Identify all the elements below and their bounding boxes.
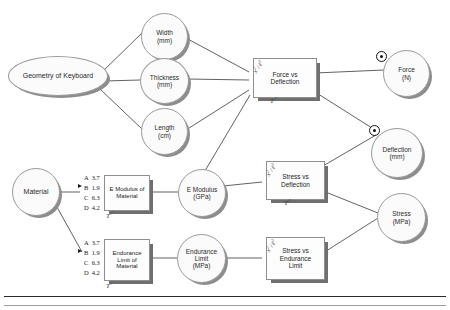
node-endurance-limit[interactable]: Endurance Limit (MPa)	[177, 234, 226, 283]
node-width[interactable]: Width (mm)	[141, 13, 188, 60]
box-stress-vs-deflection-line1: Stress vs	[281, 173, 310, 180]
wire-svd-stress	[323, 191, 378, 213]
option-key: B	[84, 248, 90, 258]
wire-svd-deflection	[323, 135, 376, 166]
option-key: A	[84, 173, 90, 183]
node-stress-unit: (MPa)	[392, 218, 410, 225]
option-key: D	[84, 268, 90, 278]
wire-thickness-fvd	[187, 79, 249, 80]
option-row[interactable]: A 3.7	[78, 173, 100, 183]
option-row[interactable]: C 6.3	[78, 193, 100, 203]
box-endurance-line2: Limit of	[112, 257, 141, 264]
box-force-vs-deflection-line1: Force vs	[271, 71, 300, 78]
box-stress-vs-deflection-line2: Deflection	[281, 181, 310, 188]
option-row[interactable]: B 1.9	[78, 248, 100, 258]
option-row[interactable]: D 4.2	[78, 203, 100, 213]
option-value: 3.7	[92, 174, 100, 181]
tag-e-modulus-of-material: T?	[106, 211, 112, 220]
tag-endurance-limit-of-material: T?	[106, 281, 112, 290]
node-e-modulus[interactable]: E Modulus (GPa)	[178, 169, 226, 217]
option-value: 4.2	[92, 269, 100, 276]
node-endurance-limit-unit: (MPa)	[186, 262, 217, 269]
diagram-canvas: Geometry of Keyboard Material Width (mm)…	[0, 0, 450, 310]
option-value: 1.9	[92, 249, 100, 256]
box-e-modulus-of-material[interactable]: E Modulus of Material	[104, 175, 150, 211]
box-e-modulus-line1: E Modulus of	[109, 186, 144, 193]
target-icon-force	[376, 51, 387, 62]
node-stress-label: Stress	[392, 210, 410, 217]
node-material-label: Material	[22, 188, 51, 196]
wire-geometry-length	[101, 90, 142, 129]
wire-width-fvd	[186, 38, 249, 72]
option-list-e-modulus[interactable]: A 3.7 B 1.9 C 6.3 D 4.2	[78, 173, 100, 213]
box-endurance-limit-of-material[interactable]: Endurance Limit of Material	[104, 239, 150, 281]
node-material[interactable]: Material	[12, 168, 60, 216]
page-rule-bottom-secondary	[4, 305, 446, 306]
wire-length-fvd	[186, 90, 249, 130]
option-value: 1.9	[92, 184, 100, 191]
wire-fvd-force	[315, 70, 384, 73]
option-row[interactable]: C 6.3	[78, 258, 100, 268]
option-value: 3.7	[92, 239, 100, 246]
wire-geometry-width	[100, 33, 142, 74]
node-endurance-limit-label: Endurance	[186, 248, 217, 255]
option-key: C	[84, 193, 90, 203]
node-deflection-label: Deflection	[383, 146, 412, 153]
box-endurance-line3: Material	[112, 263, 141, 270]
node-deflection-unit: (mm)	[383, 153, 412, 160]
node-deflection[interactable]: Deflection (mm)	[371, 128, 423, 178]
box-stress-vs-endurance-line3: Limit	[280, 262, 311, 269]
node-length-unit: (cm)	[155, 132, 175, 139]
node-thickness-unit: (mm)	[150, 81, 179, 88]
box-stress-vs-endurance-line1: Stress vs	[280, 247, 311, 254]
option-key: D	[84, 203, 90, 213]
box-stress-vs-deflection[interactable]: Stress vs Deflection	[266, 161, 325, 200]
box-e-modulus-line2: Material	[109, 193, 144, 200]
option-value: 6.3	[92, 259, 100, 266]
box-stress-vs-endurance-limit[interactable]: Stress vs Endurance Limit	[266, 237, 325, 280]
node-geometry-label: Geometry of Keyboard	[21, 72, 95, 80]
selection-caret-icon	[78, 249, 82, 253]
target-icon-deflection	[369, 125, 380, 136]
box-force-vs-deflection-line2: Deflection	[271, 78, 300, 85]
wire-svel-stress	[323, 218, 378, 253]
node-width-unit: (mm)	[156, 37, 173, 44]
box-force-vs-deflection[interactable]: Force vs Deflection	[253, 58, 317, 98]
option-row[interactable]: B 1.9	[78, 183, 100, 193]
option-key: C	[84, 258, 90, 268]
wire-fvd-deflection	[315, 92, 372, 128]
option-value: 4.2	[92, 204, 100, 211]
option-list-endurance-limit[interactable]: A 3.7 B 1.9 C 6.3 D 4.2	[78, 238, 100, 278]
tag-force-vs-deflection: T?	[270, 96, 276, 105]
option-row[interactable]: A 3.7	[78, 238, 100, 248]
option-row[interactable]: D 4.2	[78, 268, 100, 278]
node-thickness-label: Thickness	[150, 74, 179, 81]
option-key: A	[84, 238, 90, 248]
node-force[interactable]: Force (N)	[383, 50, 430, 97]
node-e-modulus-label: E Modulus	[187, 186, 218, 193]
node-width-label: Width	[156, 29, 173, 36]
node-force-unit: (N)	[398, 74, 415, 81]
tag-stress-vs-deflection: T?	[284, 198, 290, 207]
page-rule-bottom	[4, 296, 446, 297]
option-value: 6.3	[92, 194, 100, 201]
box-endurance-line1: Endurance	[112, 250, 141, 257]
node-e-modulus-unit: (GPa)	[187, 193, 218, 200]
option-key: B	[84, 183, 90, 193]
wire-emodulus-stress-vs-deflection	[223, 182, 262, 186]
node-thickness[interactable]: Thickness (mm)	[140, 58, 189, 104]
node-length-label: Length	[155, 124, 175, 131]
wire-geometry-thickness	[104, 80, 140, 81]
node-geometry-of-keyboard[interactable]: Geometry of Keyboard	[8, 56, 108, 96]
node-endurance-limit-label2: Limit	[186, 255, 217, 262]
node-length[interactable]: Length (cm)	[141, 108, 188, 155]
selection-caret-icon	[78, 184, 82, 188]
node-stress[interactable]: Stress (MPa)	[377, 193, 426, 242]
box-stress-vs-endurance-line2: Endurance	[280, 255, 311, 262]
node-force-label: Force	[398, 66, 415, 73]
